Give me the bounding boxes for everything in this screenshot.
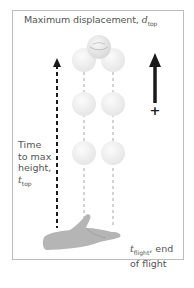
time-arrow bbox=[53, 58, 61, 228]
time-to-max-height-label: Time to max height, ttop bbox=[18, 139, 51, 189]
ball-bottom-right bbox=[101, 141, 125, 165]
ball-mid-right bbox=[101, 92, 125, 116]
side-label-line2: to max bbox=[18, 151, 51, 163]
side-label-line1: Time bbox=[18, 139, 51, 151]
hand-icon bbox=[43, 214, 121, 250]
svg-text:+: + bbox=[150, 103, 161, 118]
positive-direction-arrow bbox=[149, 53, 161, 103]
ball-bottom-left bbox=[72, 141, 96, 165]
end-label-suffix: , end bbox=[149, 243, 173, 254]
end-label-line2: of flight bbox=[130, 258, 173, 270]
side-label-subscript: top bbox=[22, 179, 32, 186]
ball-positions bbox=[72, 35, 125, 165]
end-of-flight-label: tflight, end of flight bbox=[130, 243, 173, 270]
end-label-subscript: flight bbox=[134, 249, 149, 256]
ball-mid-left bbox=[72, 92, 96, 116]
plus-sign: + bbox=[150, 103, 161, 118]
side-label-line3: height, bbox=[18, 162, 51, 174]
